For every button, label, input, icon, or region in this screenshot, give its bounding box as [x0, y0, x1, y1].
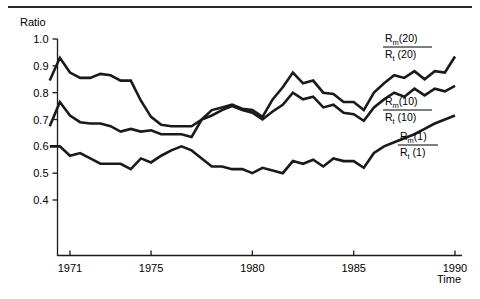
y-tick-label: 0.7 [33, 114, 48, 126]
legend-series-10: Rm(10) Rt (10) [383, 95, 432, 126]
legend-series-20: Rm(20) Rt (20) [383, 32, 432, 63]
y-axis-group: 0.40.50.60.70.80.91.0 Ratio [20, 16, 58, 256]
y-axis-title: Ratio [20, 16, 46, 28]
y-tick-label: 0.6 [33, 140, 48, 152]
y-tick-label: 0.5 [33, 167, 48, 179]
x-tick-label: 1990 [443, 262, 467, 274]
legend-1-numerator: Rm(1) [400, 130, 427, 145]
x-tick-label: 1980 [240, 262, 264, 274]
chart-figure: 0.40.50.60.70.80.91.0 Ratio 197119751980… [0, 0, 480, 299]
y-tick-label: 0.8 [33, 87, 48, 99]
y-tick-label: 0.9 [33, 60, 48, 72]
legend-10-numerator: Rm(10) [385, 95, 418, 110]
legend-20-denominator: Rt (20) [385, 48, 416, 63]
x-tick-label: 1985 [341, 262, 365, 274]
y-tick-label: 1.0 [33, 33, 48, 45]
y-tick-label: 0.4 [33, 194, 48, 206]
legend-10-denominator: Rt (10) [385, 111, 416, 126]
x-axis-group: 19711975198019851990 Time [58, 251, 468, 286]
x-axis-title: Time [437, 273, 461, 285]
x-tick-label: 1975 [139, 262, 163, 274]
y-tick-labels: 0.40.50.60.70.80.91.0 [33, 33, 48, 206]
x-tick-labels: 19711975198019851990 [58, 262, 467, 274]
x-tick-marks [70, 251, 455, 256]
legend-series-1: Rm(1) Rt (1) [398, 130, 438, 161]
x-tick-label: 1971 [58, 262, 82, 274]
legend-20-numerator: Rm(20) [385, 32, 418, 47]
ratio-line-chart: 0.40.50.60.70.80.91.0 Ratio 197119751980… [0, 0, 480, 299]
legend-1-denominator: Rt (1) [400, 146, 425, 161]
